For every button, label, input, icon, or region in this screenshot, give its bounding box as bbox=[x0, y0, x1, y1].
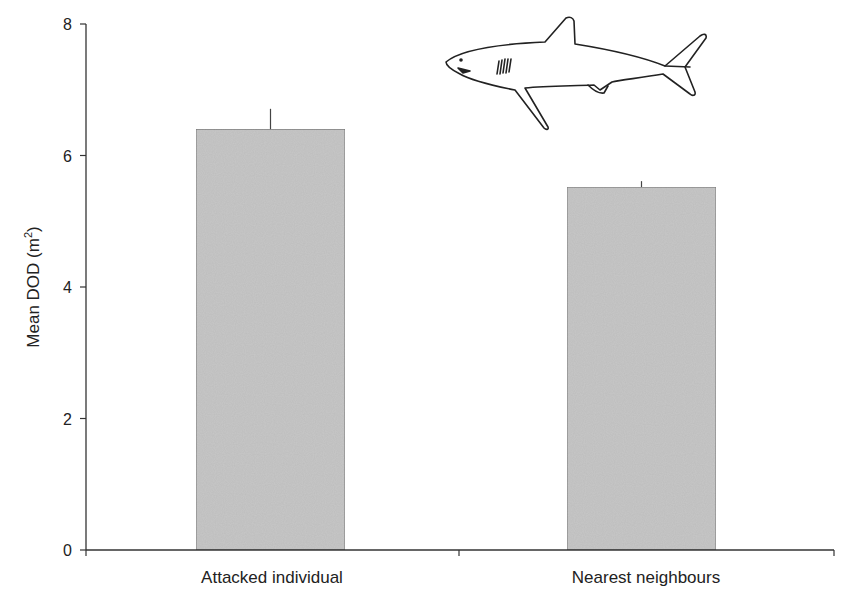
y-tick-label: 8 bbox=[63, 16, 72, 33]
bar-chart: 02468 Attacked individualNearest neighbo… bbox=[0, 0, 841, 599]
bar-1 bbox=[567, 187, 716, 550]
x-category-label: Attacked individual bbox=[201, 568, 343, 587]
shark-illustration-icon bbox=[446, 17, 706, 129]
y-tick-label: 0 bbox=[63, 542, 72, 559]
y-tick-label: 2 bbox=[63, 411, 72, 428]
y-tick-label: 4 bbox=[63, 279, 72, 296]
x-axis-labels: Attacked individualNearest neighbours bbox=[201, 568, 720, 587]
bar-0 bbox=[196, 129, 345, 550]
y-axis-label: Mean DOD (m2) bbox=[22, 226, 43, 347]
x-category-label: Nearest neighbours bbox=[572, 568, 720, 587]
y-axis-ticks: 02468 bbox=[63, 16, 86, 559]
y-tick-label: 6 bbox=[63, 148, 72, 165]
bars-group bbox=[196, 129, 716, 550]
